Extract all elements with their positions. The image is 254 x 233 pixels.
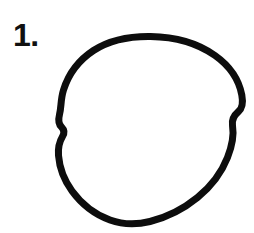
circle-shape	[58, 36, 242, 223]
hand-drawn-circle-canvas	[0, 0, 254, 233]
figure-container: 1.	[0, 0, 254, 233]
